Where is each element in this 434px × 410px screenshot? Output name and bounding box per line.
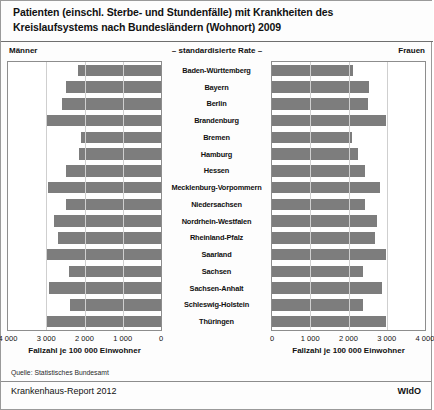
bar-frauen — [272, 249, 386, 261]
category-labels: Baden-WürttembergBayernBerlinBrandenburg… — [162, 62, 271, 332]
category-label: Baden-Württemberg — [162, 62, 271, 79]
gridline — [310, 62, 311, 330]
axis-tick-label: 1 000 — [113, 334, 132, 343]
category-label: Bremen — [162, 129, 271, 146]
bar-frauen — [272, 65, 353, 77]
axis-tick-label: 2 000 — [75, 334, 94, 343]
bar-maenner — [47, 115, 161, 127]
bar-maenner — [66, 199, 161, 211]
gridline — [123, 62, 124, 330]
category-label: Berlin — [162, 96, 271, 113]
right-panel-label: Frauen — [398, 46, 425, 55]
axis-tick-label: 4 000 — [0, 334, 17, 343]
category-label: Nordrhein-Westfalen — [162, 213, 271, 230]
bar-frauen — [272, 115, 386, 127]
axis-tick-label: 3 000 — [377, 334, 396, 343]
bar-frauen — [272, 132, 352, 144]
bar-frauen — [272, 232, 375, 244]
bar-maenner — [66, 81, 161, 93]
source-note: Quelle: Statistisches Bundesamt — [11, 369, 109, 376]
title-line-2: Kreislaufsystems nach Bundesländern (Woh… — [13, 20, 421, 35]
bar-frauen — [272, 282, 382, 294]
chart-region: Männer – standardisierte Rate – Frauen B… — [1, 42, 433, 364]
category-label: Saarland — [162, 246, 271, 263]
bar-maenner — [78, 65, 161, 77]
bar-maenner — [69, 266, 161, 278]
axis-tick-label: 3 000 — [37, 334, 56, 343]
chart-subtitle: – standardisierte Rate – — [1, 46, 433, 55]
gridline — [46, 62, 47, 330]
bar-maenner — [48, 182, 161, 194]
category-label: Schleswig-Holstein — [162, 297, 271, 314]
category-label: Hamburg — [162, 146, 271, 163]
bar-maenner — [54, 215, 161, 227]
bar-maenner — [47, 316, 161, 328]
x-axis-ticks-maenner: 01 0002 0003 0004 000 — [7, 334, 162, 346]
x-axis-title-frauen: Fallzahl je 100 000 Einwohner — [271, 346, 426, 358]
footer-divider — [1, 381, 431, 382]
category-label: Sachsen — [162, 263, 271, 280]
category-label: Bayern — [162, 79, 271, 96]
category-label: Brandenburg — [162, 112, 271, 129]
x-axis-ticks-frauen: 01 0002 0003 0004 000 — [271, 334, 426, 346]
category-label: Mecklenburg-Vorpommern — [162, 179, 271, 196]
bar-frauen — [272, 215, 377, 227]
figure-title: Patienten (einschl. Sterbe- und Stundenf… — [1, 1, 433, 42]
bar-frauen — [272, 81, 369, 93]
bar-frauen — [272, 199, 365, 211]
report-name: Krankenhaus-Report 2012 — [11, 386, 117, 396]
bar-maenner — [49, 282, 161, 294]
plot-area-maenner — [7, 61, 162, 331]
category-label: Hessen — [162, 163, 271, 180]
bar-maenner — [58, 232, 161, 244]
gridline — [349, 62, 350, 330]
category-label: Thüringen — [162, 313, 271, 330]
gridline — [387, 62, 388, 330]
axis-tick-label: 1 000 — [301, 334, 320, 343]
bar-maenner — [62, 98, 161, 110]
axis-tick-label: 4 000 — [416, 334, 434, 343]
publisher-logo: WIdO — [398, 386, 422, 396]
bar-frauen — [272, 182, 380, 194]
axis-tick-label: 0 — [270, 334, 274, 343]
bar-maenner — [79, 148, 161, 160]
bar-maenner — [81, 132, 161, 144]
title-line-1: Patienten (einschl. Sterbe- und Stundenf… — [13, 5, 421, 20]
axis-tick-label: 2 000 — [339, 334, 358, 343]
x-axis-title-maenner: Fallzahl je 100 000 Einwohner — [7, 346, 162, 358]
bar-frauen — [272, 98, 368, 110]
bar-frauen — [272, 148, 358, 160]
bar-frauen — [272, 299, 363, 311]
bar-maenner — [46, 249, 161, 261]
category-label: Sachsen-Anhalt — [162, 280, 271, 297]
category-label: Niedersachsen — [162, 196, 271, 213]
axis-tick-label: 0 — [159, 334, 163, 343]
bar-frauen — [272, 316, 386, 328]
bar-maenner — [66, 165, 161, 177]
category-label: Rheinland-Pfalz — [162, 230, 271, 247]
gridline — [85, 62, 86, 330]
plot-area-frauen — [271, 61, 426, 331]
bar-frauen — [272, 165, 365, 177]
